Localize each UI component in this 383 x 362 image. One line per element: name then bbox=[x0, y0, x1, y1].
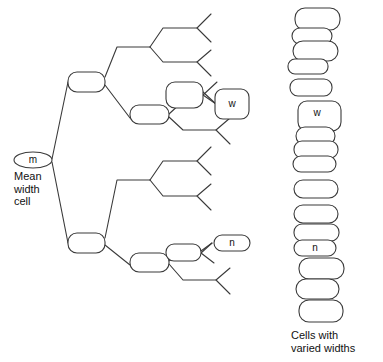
caption-cells-with-varied-widths: Cells with varied widths bbox=[291, 329, 355, 354]
edge-lvl2u-to-lower-horiz bbox=[169, 117, 216, 130]
terminal-fork-8 bbox=[216, 268, 230, 294]
edge-lvl2l-to-lower-horiz bbox=[169, 264, 216, 280]
node-lvl1-upper[interactable] bbox=[68, 72, 105, 92]
node-root-m-label: m bbox=[29, 154, 37, 165]
cell-shape-12 bbox=[294, 224, 339, 241]
edge-root-to-upper bbox=[52, 82, 68, 159]
cell-label-w: w bbox=[312, 107, 321, 118]
cell-stack-item[interactable] bbox=[296, 279, 339, 299]
cell-shape-16 bbox=[299, 300, 343, 322]
cell-shape-9 bbox=[293, 156, 336, 172]
terminal-fork-5 bbox=[197, 147, 211, 175]
terminal-fork-6 bbox=[197, 184, 211, 210]
cell-stack-item[interactable] bbox=[290, 79, 332, 96]
node-root-m[interactable]: m bbox=[14, 152, 52, 168]
node-lvl2-lower-shape bbox=[130, 253, 169, 272]
cell-stack-item[interactable] bbox=[295, 8, 340, 30]
edge-lower-to-topstem bbox=[105, 180, 150, 238]
terminal-fork-1 bbox=[197, 14, 211, 42]
node-lvl1-lower[interactable] bbox=[68, 233, 105, 253]
cell-shape-1 bbox=[295, 8, 340, 30]
edge-lowerstem-down bbox=[150, 180, 197, 196]
edge-upper-to-topstem bbox=[105, 47, 150, 77]
edge-root-to-lower bbox=[52, 162, 68, 243]
edge-lower-to-lvl2 bbox=[105, 245, 130, 265]
node-lvl3-upper-shape bbox=[166, 82, 203, 108]
node-lvl2-upper[interactable] bbox=[130, 105, 169, 124]
cell-shape-14 bbox=[299, 258, 344, 279]
cell-shape-3 bbox=[293, 41, 338, 61]
cell-stack-item[interactable] bbox=[299, 300, 343, 322]
edge-topstem-down bbox=[150, 47, 197, 62]
cell-shape-10 bbox=[294, 180, 338, 198]
tree-nodes: m bbox=[14, 72, 250, 272]
node-lvl3-upper[interactable] bbox=[166, 82, 203, 108]
cell-shape-5 bbox=[290, 79, 332, 96]
node-lvl3-lower[interactable] bbox=[166, 244, 201, 261]
cell-shape-11 bbox=[294, 205, 338, 223]
edge-topstem-up bbox=[150, 28, 197, 47]
cell-stack-item[interactable] bbox=[294, 205, 338, 223]
node-lvl2-lower[interactable] bbox=[130, 253, 169, 272]
node-branch-n-label: n bbox=[229, 237, 235, 248]
cell-shape-4 bbox=[288, 59, 328, 74]
node-lvl2-upper-shape bbox=[130, 105, 169, 124]
node-branch-w-label: w bbox=[227, 98, 236, 109]
cell-label-n: n bbox=[312, 242, 318, 253]
cell-stack-item[interactable] bbox=[294, 224, 339, 241]
cell-stack-item[interactable] bbox=[293, 156, 336, 172]
edge-lowerstem-up bbox=[150, 161, 197, 180]
cell-stack-item-n[interactable]: n bbox=[294, 240, 336, 256]
node-branch-n[interactable]: n bbox=[214, 235, 250, 251]
caption-mean-width-cell: Mean width cell bbox=[14, 170, 42, 208]
cell-stack-item[interactable] bbox=[299, 258, 344, 279]
edge-upper-to-lvl2 bbox=[105, 85, 130, 118]
cell-stack: w n bbox=[288, 8, 344, 322]
cell-stack-item[interactable] bbox=[294, 180, 338, 198]
cell-shape-15 bbox=[296, 279, 339, 299]
diagram-canvas: m bbox=[0, 0, 383, 362]
node-lvl1-lower-shape bbox=[68, 233, 105, 253]
diagram-root: m bbox=[0, 0, 383, 362]
terminal-fork-4 bbox=[216, 118, 230, 144]
node-lvl1-upper-shape bbox=[68, 72, 105, 92]
node-lvl3-lower-shape bbox=[166, 244, 201, 261]
cell-stack-item[interactable] bbox=[293, 41, 338, 61]
terminal-fork-2 bbox=[197, 50, 211, 76]
cell-stack-item[interactable] bbox=[288, 59, 328, 74]
node-branch-w[interactable]: w bbox=[215, 89, 249, 119]
